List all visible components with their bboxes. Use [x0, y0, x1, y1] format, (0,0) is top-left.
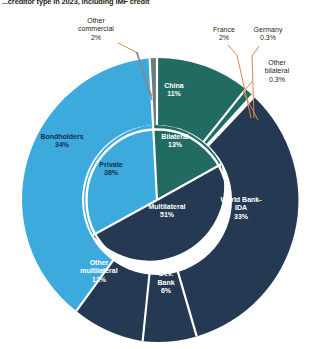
- callout-germany-value: 0.3%: [240, 34, 296, 42]
- callout-other-commercial-value: 2%: [66, 34, 126, 42]
- inner-ring: [82, 125, 232, 275]
- callout-other-commercial: Other commercial 2%: [66, 17, 126, 42]
- callout-other-bilateral: Other bilateral 0.3%: [248, 59, 306, 84]
- callout-other-bilateral-line1: Other: [248, 59, 306, 67]
- donut-chart-svg: [0, 0, 315, 349]
- callout-germany-label: Germany: [240, 26, 296, 34]
- callout-other-commercial-line1: Other: [66, 17, 126, 25]
- callout-other-commercial-line2: commercial: [66, 25, 126, 33]
- callout-other-bilateral-value: 0.3%: [248, 76, 306, 84]
- callout-other-bilateral-line2: bilateral: [248, 67, 306, 75]
- callout-germany: Germany 0.3%: [240, 26, 296, 43]
- chart-figure: ...creditor type in 2023, including IMF …: [0, 0, 315, 349]
